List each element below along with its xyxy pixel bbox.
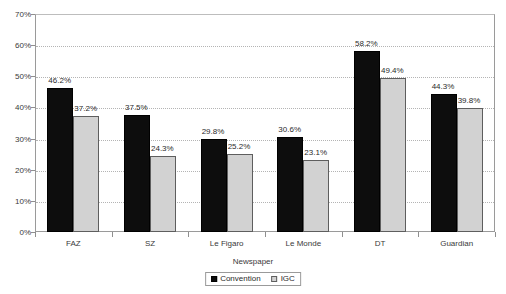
y-axis-tick-label: 0%: [0, 228, 31, 237]
y-axis-tick-mark: [31, 170, 35, 171]
bar-value-label: 23.1%: [304, 149, 327, 157]
x-axis-tick-mark: [112, 232, 113, 237]
y-axis-tick-mark: [31, 201, 35, 202]
legend-swatch-icon: [272, 276, 278, 282]
y-axis-tick-mark: [31, 45, 35, 46]
x-axis-category-label: DT: [375, 239, 386, 248]
bar-faz-igc: [73, 116, 99, 232]
bar-guardian-igc: [457, 108, 483, 232]
y-axis-tick-label: 50%: [0, 72, 31, 81]
bar-le-monde-igc: [303, 160, 329, 232]
bar-le-monde-convention: [277, 137, 303, 232]
bar-le-figaro-igc: [227, 154, 253, 232]
y-axis-tick-label: 20%: [0, 165, 31, 174]
y-axis-tick-label: 30%: [0, 134, 31, 143]
bar-dt-igc: [380, 78, 406, 232]
legend-item-convention[interactable]: Convention: [211, 275, 260, 283]
bar-value-label: 44.3%: [432, 83, 455, 91]
bar-sz-igc: [150, 156, 176, 232]
bar-value-label: 49.4%: [381, 67, 404, 75]
x-axis-title: Newspaper: [0, 257, 506, 266]
bar-guardian-convention: [431, 94, 457, 232]
y-axis-tick-mark: [31, 14, 35, 15]
x-axis-category-label: SZ: [145, 239, 155, 248]
x-axis-tick-mark: [35, 232, 36, 237]
y-axis-tick-label: 40%: [0, 103, 31, 112]
bar-value-label: 58.2%: [355, 40, 378, 48]
bar-dt-convention: [354, 51, 380, 232]
x-axis-tick-mark: [418, 232, 419, 237]
bar-faz-convention: [47, 88, 73, 232]
x-axis-tick-mark: [188, 232, 189, 237]
bar-value-label: 46.2%: [48, 77, 71, 85]
x-axis-category-label: Le Monde: [286, 239, 322, 248]
bar-value-label: 30.6%: [278, 126, 301, 134]
bar-chart: 0%10%20%30%40%50%60%70% 46.2%37.2%37.5%2…: [0, 0, 506, 294]
legend-label: IGC: [281, 275, 295, 283]
y-axis-tick-mark: [31, 139, 35, 140]
bar-value-label: 37.5%: [125, 104, 148, 112]
y-axis-tick-mark: [31, 107, 35, 108]
bar-value-label: 39.8%: [458, 97, 481, 105]
y-axis-tick-label: 10%: [0, 196, 31, 205]
legend-swatch-icon: [211, 276, 217, 282]
x-axis-category-label: Guardian: [440, 239, 473, 248]
bar-le-figaro-convention: [201, 139, 227, 232]
x-axis-category-label: FAZ: [66, 239, 81, 248]
legend-item-igc[interactable]: IGC: [272, 275, 295, 283]
bar-value-label: 25.2%: [228, 143, 251, 151]
y-axis-tick-mark: [31, 76, 35, 77]
x-axis-tick-mark: [495, 232, 496, 237]
x-axis-tick-mark: [265, 232, 266, 237]
x-axis-tick-mark: [342, 232, 343, 237]
y-axis-tick-label: 70%: [0, 10, 31, 19]
bar-sz-convention: [124, 115, 150, 232]
legend: ConventionIGC: [205, 272, 301, 286]
bar-value-label: 37.2%: [74, 105, 97, 113]
y-axis-tick-label: 60%: [0, 41, 31, 50]
legend-label: Convention: [220, 275, 260, 283]
x-axis-category-label: Le Figaro: [210, 239, 244, 248]
bar-value-label: 29.8%: [202, 128, 225, 136]
bar-value-label: 24.3%: [151, 145, 174, 153]
